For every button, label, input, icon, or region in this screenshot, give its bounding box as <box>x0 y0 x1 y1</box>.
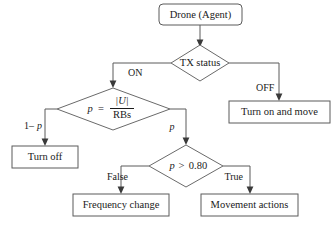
node-turn-off[interactable]: Turn off <box>12 146 78 168</box>
node-movement-actions[interactable]: Movement actions <box>201 194 298 216</box>
edge-label-one-minus-p-var: p <box>36 120 42 131</box>
node-label-frequency-change: Frequency change <box>83 199 160 210</box>
node-label-p-threshold-value: 0.80 <box>189 160 207 171</box>
edge-label-false: False <box>107 171 129 182</box>
arrow-head-icon <box>110 81 117 89</box>
node-label-p-formula-denominator: RBs <box>113 109 131 120</box>
node-label-turn-on-and-move: Turn on and move <box>241 106 318 117</box>
edge-label-p: p <box>169 121 175 132</box>
flowchart-diagram: Drone (Agent) TX status Turn on and move… <box>0 0 334 231</box>
node-label-p-threshold-variable: p <box>168 160 174 171</box>
node-start-drone-agent[interactable]: Drone (Agent) <box>159 4 242 25</box>
node-label-p-formula-equals: = <box>98 103 104 114</box>
edge-label-on: ON <box>128 67 142 78</box>
arrow-head-icon <box>42 139 49 147</box>
node-turn-on-and-move[interactable]: Turn on and move <box>229 101 330 123</box>
edge-label-one-minus-p: 1– p <box>24 120 42 131</box>
node-label-p-formula-lhs: p <box>86 103 92 114</box>
edge-label-off: OFF <box>256 82 275 93</box>
edge-label-true: True <box>224 171 243 182</box>
node-shape-diamond <box>149 145 223 187</box>
node-frequency-change[interactable]: Frequency change <box>73 194 169 216</box>
edge-p-formula-to-turn-off <box>42 109 57 146</box>
edge-start-to-tx-status <box>197 25 204 47</box>
arrow-head-icon <box>247 187 254 195</box>
node-p-formula[interactable]: p = |U| RBs <box>57 88 170 130</box>
edge-line <box>45 109 57 140</box>
arrow-head-icon <box>118 187 125 195</box>
node-p-threshold[interactable]: p > 0.80 <box>149 145 223 187</box>
node-label-tx-status: TX status <box>180 57 221 68</box>
node-label-start: Drone (Agent) <box>170 9 232 21</box>
node-label-p-formula-numerator: |U| <box>115 95 128 106</box>
node-tx-status[interactable]: TX status <box>171 45 229 81</box>
edge-label-one-minus-p-prefix: 1– <box>24 120 35 131</box>
arrow-head-icon <box>183 138 190 146</box>
node-label-turn-off: Turn off <box>28 151 63 162</box>
node-label-movement-actions: Movement actions <box>211 199 289 210</box>
node-label-p-threshold-operator: > <box>179 160 185 171</box>
arrow-head-icon <box>276 94 283 102</box>
flowchart-canvas: Drone (Agent) TX status Turn on and move… <box>0 0 334 231</box>
